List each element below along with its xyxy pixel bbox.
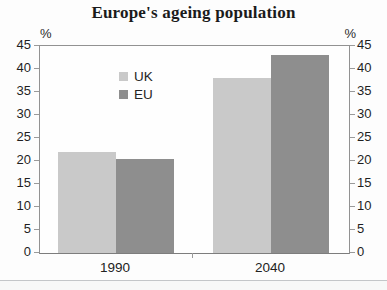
y-tick-mark-left-25 (34, 137, 39, 138)
y-tick-label-right-35: 35 (357, 84, 387, 98)
y-tick-mark-left-5 (34, 229, 39, 230)
y-tick-mark-left-35 (34, 91, 39, 92)
y-tick-mark-right-20 (350, 160, 355, 161)
chart-title: Europe's ageing population (0, 3, 387, 23)
legend-label-uk: UK (134, 69, 153, 84)
y-tick-label-left-0: 0 (0, 245, 31, 259)
y-tick-label-right-45: 45 (357, 38, 387, 52)
figure: Europe's ageing population % % UK EU 199… (0, 0, 387, 290)
y-tick-mark-right-5 (350, 229, 355, 230)
legend-row-uk: UK (119, 67, 153, 85)
y-tick-mark-left-10 (34, 206, 39, 207)
y-tick-mark-right-25 (350, 137, 355, 138)
bar-uk-1990 (58, 152, 116, 253)
x-label-1990: 1990 (85, 260, 145, 275)
legend-row-eu: EU (119, 85, 153, 103)
y-tick-mark-left-45 (34, 45, 39, 46)
bar-eu-2040 (271, 55, 329, 253)
plot-area: UK EU (39, 45, 350, 254)
page-margin-strip (0, 281, 387, 290)
y-tick-label-right-5: 5 (357, 222, 387, 236)
y-tick-label-left-40: 40 (0, 61, 31, 75)
bar-eu-1990 (116, 159, 174, 253)
y-tick-label-right-40: 40 (357, 61, 387, 75)
y-tick-mark-right-10 (350, 206, 355, 207)
y-tick-label-right-20: 20 (357, 153, 387, 167)
legend-label-eu: EU (134, 87, 153, 102)
y-axis-unit-left: % (40, 26, 64, 41)
x-label-2040: 2040 (240, 260, 300, 275)
legend-swatch-eu (119, 90, 128, 99)
y-tick-mark-right-40 (350, 68, 355, 69)
y-tick-label-right-15: 15 (357, 176, 387, 190)
y-tick-mark-right-0 (350, 252, 355, 253)
y-tick-label-right-0: 0 (357, 245, 387, 259)
y-tick-mark-right-30 (350, 114, 355, 115)
y-tick-label-left-35: 35 (0, 84, 31, 98)
y-tick-mark-left-0 (34, 252, 39, 253)
legend: UK EU (119, 67, 153, 103)
y-tick-mark-left-20 (34, 160, 39, 161)
y-tick-mark-right-35 (350, 91, 355, 92)
y-tick-mark-right-45 (350, 45, 355, 46)
bar-uk-2040 (213, 78, 271, 253)
y-tick-mark-left-15 (34, 183, 39, 184)
y-tick-mark-right-15 (350, 183, 355, 184)
y-tick-label-right-10: 10 (357, 199, 387, 213)
y-tick-label-left-10: 10 (0, 199, 31, 213)
y-tick-mark-left-30 (34, 114, 39, 115)
y-axis-unit-right: % (332, 26, 356, 41)
y-tick-label-left-30: 30 (0, 107, 31, 121)
y-tick-label-left-45: 45 (0, 38, 31, 52)
y-tick-label-left-5: 5 (0, 222, 31, 236)
y-tick-label-left-25: 25 (0, 130, 31, 144)
y-tick-label-right-25: 25 (357, 130, 387, 144)
x-axis-divider-tick (192, 253, 193, 258)
y-tick-label-left-15: 15 (0, 176, 31, 190)
y-tick-label-right-30: 30 (357, 107, 387, 121)
y-tick-label-left-20: 20 (0, 153, 31, 167)
y-tick-mark-left-40 (34, 68, 39, 69)
legend-swatch-uk (119, 72, 128, 81)
